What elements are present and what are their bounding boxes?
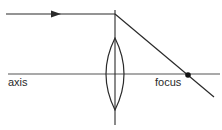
focus-label: focus <box>155 77 181 88</box>
axis-label: axis <box>8 77 28 88</box>
focus-dot-icon <box>185 72 191 78</box>
arrow-right-icon <box>51 11 61 18</box>
lens-ray-diagram: axis focus <box>0 0 222 130</box>
